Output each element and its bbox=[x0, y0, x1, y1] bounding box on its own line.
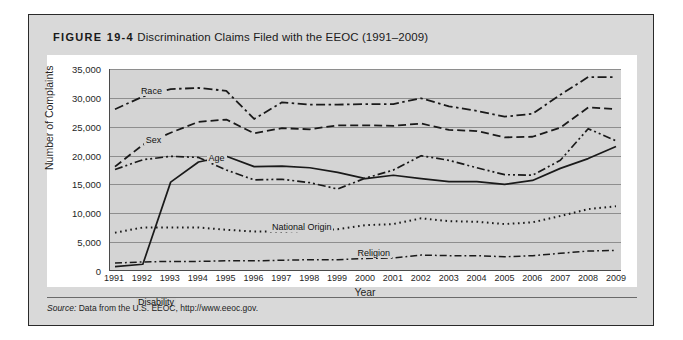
series-line-sex bbox=[115, 107, 616, 166]
x-axis-tick-label: 1994 bbox=[188, 273, 208, 283]
x-axis-tick-label: 1999 bbox=[327, 273, 347, 283]
y-axis-tick-label: 30,000 bbox=[47, 92, 101, 103]
source-label: Source: bbox=[47, 303, 76, 313]
series-label-religion: Religion bbox=[356, 248, 393, 258]
x-axis-tick-label: 2001 bbox=[383, 273, 403, 283]
x-axis-tick-label: 1998 bbox=[299, 273, 319, 283]
y-axis-tick-label: 20,000 bbox=[47, 150, 101, 161]
x-axis-tick-label: 2005 bbox=[494, 273, 514, 283]
series-label-sex: Sex bbox=[144, 135, 164, 145]
figure-title: FIGURE 19-4 Discrimination Claims Filed … bbox=[53, 31, 613, 51]
chart-panel: Number of Complaints 05,00010,00015,0002… bbox=[47, 55, 637, 287]
series-lines bbox=[110, 69, 621, 270]
x-axis-tick-label: 1991 bbox=[104, 273, 124, 283]
series-label-age: Age bbox=[207, 153, 227, 163]
source-note: Source: Data from the U.S. EEOC, http://… bbox=[47, 303, 617, 313]
figure-number: FIGURE 19-4 bbox=[53, 31, 134, 43]
x-axis-tick-label: 1993 bbox=[160, 273, 180, 283]
series-label-national-origin: National Origin bbox=[270, 222, 334, 232]
y-axis-tick-label: 0 bbox=[47, 266, 101, 277]
x-axis-tick-label: 1997 bbox=[271, 273, 291, 283]
x-axis-tick-label: 2003 bbox=[439, 273, 459, 283]
x-axis-tick-label: 2009 bbox=[606, 273, 626, 283]
y-axis-tick-label: 5,000 bbox=[47, 237, 101, 248]
series-label-race: Race bbox=[139, 86, 164, 96]
x-axis-tick-label: 2002 bbox=[411, 273, 431, 283]
x-axis-tick-label: 2006 bbox=[522, 273, 542, 283]
x-axis-tick-label: 2004 bbox=[467, 273, 487, 283]
x-axis-tick-label: 2007 bbox=[550, 273, 570, 283]
x-axis-ticks: 1991199219931994199519961997199819992000… bbox=[109, 273, 621, 287]
series-line-national-origin bbox=[115, 206, 616, 232]
y-axis-tick-label: 25,000 bbox=[47, 121, 101, 132]
series-line-race bbox=[115, 77, 616, 119]
y-axis-tick-label: 35,000 bbox=[47, 64, 101, 75]
source-text: Data from the U.S. EEOC, http://www.eeoc… bbox=[76, 303, 258, 313]
series-line-age bbox=[115, 129, 616, 189]
x-axis-tick-label: 1995 bbox=[216, 273, 236, 283]
x-axis-tick-label: 1996 bbox=[243, 273, 263, 283]
y-axis-tick-label: 15,000 bbox=[47, 179, 101, 190]
x-axis-tick-label: 2008 bbox=[578, 273, 598, 283]
y-axis-tick-label: 10,000 bbox=[47, 208, 101, 219]
source-divider bbox=[47, 297, 637, 298]
plot-area: RaceSexAgeDisabilityNational OriginRelig… bbox=[109, 69, 621, 271]
x-axis-tick-label: 1992 bbox=[132, 273, 152, 283]
figure-title-text: Discrimination Claims Filed with the EEO… bbox=[137, 31, 428, 43]
y-axis-ticks: 05,00010,00015,00020,00025,00030,00035,0… bbox=[47, 69, 105, 271]
x-axis-tick-label: 2000 bbox=[355, 273, 375, 283]
figure-card: FIGURE 19-4 Discrimination Claims Filed … bbox=[28, 14, 654, 326]
